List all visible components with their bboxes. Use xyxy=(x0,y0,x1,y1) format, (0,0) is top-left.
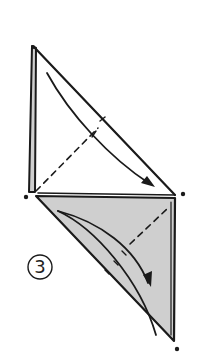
bottom-reference-dot xyxy=(175,347,179,351)
lower-top-edge-inner xyxy=(38,193,175,195)
step-number: 3 xyxy=(27,254,53,280)
left-reference-dot xyxy=(24,195,28,199)
upper-left-edge-strip xyxy=(29,46,36,192)
origami-diagram xyxy=(0,0,207,357)
top-vertex-dot xyxy=(31,45,35,49)
upper-dashed-fold-line xyxy=(36,128,98,191)
upper-arrowhead-icon xyxy=(141,176,155,187)
upper-hypotenuse xyxy=(34,47,175,195)
lower-shaded-triangle xyxy=(36,196,175,341)
right-reference-dot xyxy=(181,192,185,196)
